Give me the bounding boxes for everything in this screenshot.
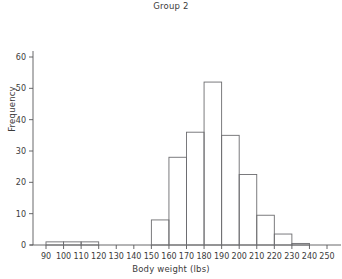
- y-tick-label: 50: [16, 84, 26, 93]
- x-tick-label: 100: [56, 252, 71, 261]
- histogram-bar: [169, 157, 187, 245]
- histogram-bar: [204, 82, 222, 245]
- x-tick-label: 140: [126, 252, 141, 261]
- histogram-bar: [274, 234, 292, 245]
- x-tick-label: 170: [179, 252, 194, 261]
- x-tick-label: 250: [319, 252, 334, 261]
- histogram-figure: Group 2 Frequency Body weight (lbs) 0102…: [0, 0, 342, 279]
- x-tick-label: 90: [41, 252, 51, 261]
- histogram-bars: [46, 82, 309, 245]
- x-tick-label: 180: [196, 252, 211, 261]
- y-tick-label: 30: [16, 147, 26, 156]
- histogram-bar: [64, 242, 82, 245]
- x-axis: 9010011012013014015016017018019020021022…: [30, 245, 341, 261]
- histogram-bar: [257, 215, 275, 245]
- x-tick-label: 220: [267, 252, 282, 261]
- histogram-bar: [151, 220, 169, 245]
- plot-area: 0102030405060 90100110120130140150160170…: [0, 0, 342, 279]
- histogram-bar: [81, 242, 99, 245]
- histogram-bar: [292, 243, 310, 245]
- x-tick-label: 120: [91, 252, 106, 261]
- histogram-bar: [222, 135, 240, 245]
- histogram-bar: [239, 175, 257, 246]
- x-tick-label: 160: [161, 252, 176, 261]
- y-tick-label: 0: [21, 241, 26, 250]
- x-tick-label: 150: [144, 252, 159, 261]
- histogram-bar: [187, 132, 205, 245]
- x-tick-label: 200: [232, 252, 247, 261]
- y-tick-label: 40: [16, 116, 26, 125]
- y-tick-label: 60: [16, 53, 26, 62]
- x-tick-label: 210: [249, 252, 264, 261]
- x-tick-label: 230: [284, 252, 299, 261]
- y-axis: 0102030405060: [16, 51, 33, 250]
- y-tick-label: 10: [16, 210, 26, 219]
- x-tick-label: 110: [73, 252, 88, 261]
- y-tick-label: 20: [16, 178, 26, 187]
- x-tick-label: 130: [109, 252, 124, 261]
- x-tick-label: 240: [302, 252, 317, 261]
- histogram-bar: [46, 242, 64, 245]
- x-tick-label: 190: [214, 252, 229, 261]
